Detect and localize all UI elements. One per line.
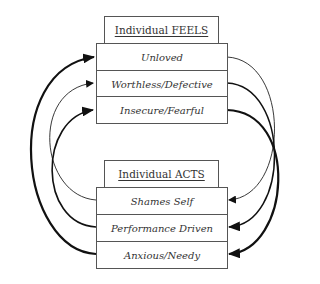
feels-item-worthless: Worthless/Defective	[97, 70, 227, 97]
arrow-unloved-to-shames	[227, 57, 275, 200]
feels-list: Unloved Worthless/Defective Insecure/Fea…	[96, 43, 228, 124]
acts-title: Individual ACTS	[118, 168, 205, 180]
acts-item-shames-self: Shames Self	[97, 188, 227, 214]
arrow-performance-to-insecure	[52, 110, 96, 227]
feels-item-insecure: Insecure/Fearful	[97, 96, 227, 123]
acts-item-performance-driven: Performance Driven	[97, 214, 227, 241]
arrow-insecure-to-anxious	[227, 110, 278, 254]
acts-list: Shames Self Performance Driven Anxious/N…	[96, 187, 228, 269]
feels-header: Individual FEELS	[104, 16, 219, 44]
arrow-anxious-to-unloved	[31, 57, 96, 254]
feels-item-unloved: Unloved	[97, 44, 227, 71]
acts-header: Individual ACTS	[104, 160, 219, 188]
feels-title: Individual FEELS	[115, 24, 209, 36]
arrow-worthless-to-performance	[227, 83, 275, 227]
acts-item-anxious-needy: Anxious/Needy	[97, 241, 227, 268]
